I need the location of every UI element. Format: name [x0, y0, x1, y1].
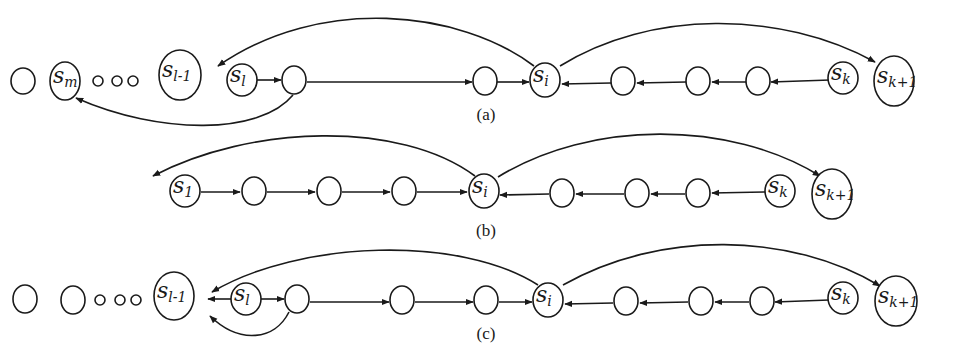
- state-node: [11, 68, 35, 94]
- state-node-s-i: si: [533, 282, 563, 317]
- state-node-s-1: s1: [170, 173, 200, 207]
- transition-arrow: [210, 312, 289, 336]
- state-node: [392, 177, 416, 205]
- transition-arrow: [775, 300, 829, 302]
- state-node-s-k+1: sk+1: [874, 56, 917, 106]
- state-node: [686, 67, 710, 95]
- state-node: [746, 67, 770, 95]
- state-node-s-k: sk: [765, 173, 795, 207]
- state-node-s-l-1: sl-1: [159, 50, 201, 100]
- transition-arrow: [562, 83, 611, 84]
- transition-arrow: [712, 192, 766, 193]
- state-node: [614, 287, 638, 315]
- state-node: [317, 177, 341, 205]
- transition-arrow: [500, 194, 549, 195]
- transition-arrow: [637, 82, 686, 83]
- transition-arrow: [153, 136, 475, 176]
- state-node: [474, 286, 498, 314]
- state-transition-figure: smsl-1slsisksk+1(a) s1sisksk+1(b) sl-1sl…: [0, 0, 956, 357]
- state-node-s-k+1: sk+1: [812, 169, 855, 219]
- state-node-s-k: sk: [828, 280, 858, 314]
- state-node-s-l: sl: [227, 62, 257, 96]
- state-node: [285, 285, 309, 313]
- state-node-s-l-1: sl-1: [154, 272, 194, 320]
- state-node: [611, 67, 635, 95]
- state-node: [625, 179, 649, 207]
- state-node: [95, 295, 105, 305]
- state-node: [242, 177, 266, 205]
- transition-arrow: [218, 18, 534, 66]
- state-node-s-i: si: [469, 173, 499, 208]
- state-node-s-i: si: [530, 62, 560, 97]
- state-node-s-k+1: sk+1: [875, 276, 918, 326]
- transition-arrow: [565, 303, 613, 304]
- state-node: [686, 179, 710, 207]
- panel-c: sl-1slsisksk+1(c): [13, 245, 918, 343]
- state-node: [61, 286, 85, 314]
- panel-caption: (c): [477, 324, 496, 343]
- state-node-s-k: sk: [828, 60, 858, 94]
- state-node: [282, 66, 306, 94]
- state-node-s-m: sm: [50, 62, 80, 100]
- state-node: [689, 287, 713, 315]
- transition-arrow: [640, 302, 688, 303]
- state-node: [13, 285, 37, 313]
- state-node: [93, 76, 103, 86]
- state-node: [131, 295, 141, 305]
- panel-a: smsl-1slsisksk+1(a): [11, 18, 917, 125]
- state-node-s-l: sl: [231, 281, 261, 315]
- panel-caption: (a): [477, 105, 496, 124]
- state-node: [390, 286, 414, 314]
- state-node: [473, 67, 497, 95]
- transition-arrow: [771, 80, 830, 82]
- state-node: [550, 179, 574, 207]
- state-node: [750, 287, 774, 315]
- transition-arrow: [498, 134, 820, 177]
- transition-arrow: [560, 23, 875, 66]
- panel-b: s1sisksk+1(b): [153, 134, 855, 240]
- state-node: [115, 295, 125, 305]
- panel-caption: (b): [476, 221, 496, 240]
- state-node: [128, 76, 138, 86]
- state-node: [112, 76, 122, 86]
